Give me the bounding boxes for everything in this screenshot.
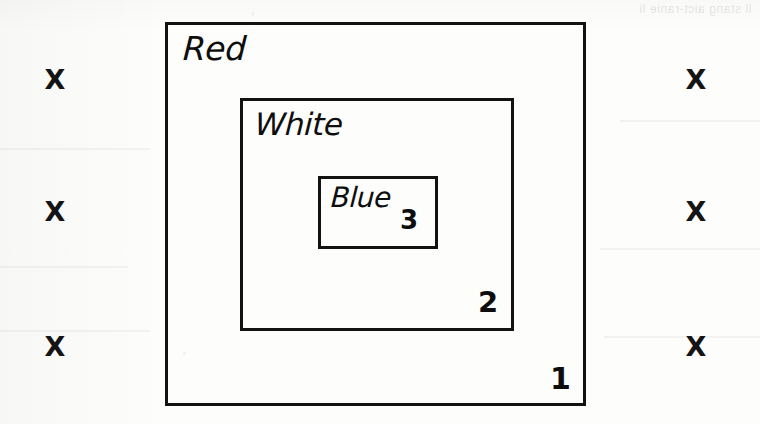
scan-smudge xyxy=(0,330,150,332)
level-number-1: 1 xyxy=(550,364,571,394)
level-number-3: 3 xyxy=(400,207,418,233)
scanned-diagram-canvas: ll stang aict-ranie li Red White Blue 1 … xyxy=(0,0,760,424)
label-white: White xyxy=(254,106,344,142)
x-mark-icon: X xyxy=(43,66,67,93)
label-blue: Blue xyxy=(330,181,392,214)
level-number-2: 2 xyxy=(478,288,498,317)
x-mark-icon: X xyxy=(684,333,708,360)
scan-smudge xyxy=(0,148,150,150)
x-mark-icon: X xyxy=(684,198,708,225)
label-red: Red xyxy=(182,29,247,68)
scan-smudge xyxy=(620,120,760,122)
scan-smudge xyxy=(252,12,254,16)
x-mark-icon: X xyxy=(43,198,67,225)
scan-smudge xyxy=(604,336,760,338)
bleed-through-text: ll stang aict-ranie li xyxy=(639,2,752,16)
scan-smudge xyxy=(600,248,760,250)
x-mark-icon: X xyxy=(43,333,67,360)
x-mark-icon: X xyxy=(684,66,708,93)
scan-smudge xyxy=(0,266,128,268)
